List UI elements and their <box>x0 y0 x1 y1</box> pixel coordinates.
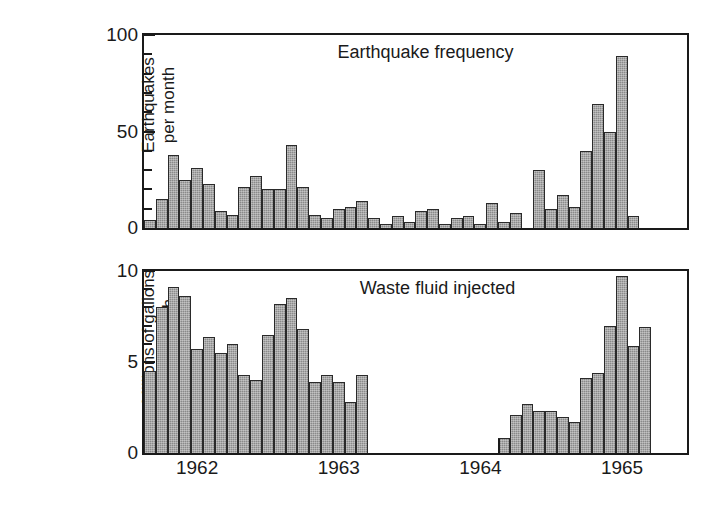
bar <box>156 199 168 228</box>
bar <box>639 327 651 453</box>
bar-slot <box>203 35 215 228</box>
bar-slot <box>533 35 545 228</box>
bar-slot <box>250 35 262 228</box>
bar-slot <box>368 35 380 228</box>
bar-slot <box>286 35 298 228</box>
bar-slot <box>309 271 321 453</box>
bar <box>580 151 592 228</box>
bar-slot <box>639 271 651 453</box>
bar <box>203 184 215 228</box>
bar-slot <box>522 271 534 453</box>
bar <box>321 375 333 453</box>
bar <box>345 207 357 228</box>
bar-slot <box>392 35 404 228</box>
bar-slot <box>545 35 557 228</box>
injection-resume-tick <box>498 439 500 453</box>
bar <box>510 415 522 453</box>
bar <box>356 201 368 228</box>
bar-slot <box>545 271 557 453</box>
y-tick-label: 50 <box>117 121 138 140</box>
bar-slot <box>215 271 227 453</box>
bar-slot <box>215 35 227 228</box>
bar-slot <box>580 35 592 228</box>
bar <box>439 224 451 228</box>
x-tick-label-1964: 1964 <box>459 457 501 479</box>
bar <box>274 189 286 228</box>
bar-slot <box>156 271 168 453</box>
y-tick-label: 10 <box>117 261 138 280</box>
bar <box>580 378 592 453</box>
bar-slot <box>179 271 191 453</box>
bar <box>262 189 274 228</box>
bar-slot <box>321 35 333 228</box>
bar-slot <box>510 271 522 453</box>
bar <box>321 218 333 228</box>
y-tick-label: 100 <box>106 25 138 44</box>
bar <box>250 380 262 453</box>
bar-slot <box>168 271 180 453</box>
bar <box>333 209 345 228</box>
x-tick-label-1962: 1962 <box>176 457 218 479</box>
y-tick-label: 0 <box>127 218 138 237</box>
bar <box>179 296 191 453</box>
bar-slot <box>179 35 191 228</box>
bar-slot <box>156 35 168 228</box>
bar-slot <box>498 35 510 228</box>
bar-slot <box>356 35 368 228</box>
bar <box>392 216 404 228</box>
bar-slot <box>474 271 486 453</box>
bar <box>616 276 628 453</box>
panel-waste-fluid-injected: Millions of gallons per month 0510 Waste… <box>142 269 689 455</box>
bar <box>309 382 321 453</box>
bar <box>168 287 180 453</box>
bar-slot <box>404 271 416 453</box>
bar-slot <box>616 35 628 228</box>
bar <box>592 104 604 228</box>
bar-slot <box>569 271 581 453</box>
bar-slot <box>451 271 463 453</box>
bar-slot <box>498 271 510 453</box>
bar-slot <box>321 271 333 453</box>
panel-earthquake-frequency: Earthquakes per month 050100 Earthquake … <box>142 33 689 230</box>
bar-slot <box>274 271 286 453</box>
bar <box>463 216 475 228</box>
bar-slot <box>628 35 640 228</box>
bar-slot <box>651 271 663 453</box>
bar <box>486 203 498 228</box>
bar <box>533 411 545 453</box>
bar <box>191 349 203 453</box>
bar <box>522 404 534 453</box>
bar <box>156 307 168 453</box>
bar <box>168 155 180 228</box>
bar-slot <box>297 271 309 453</box>
bar-slot <box>227 271 239 453</box>
bar-slot <box>427 35 439 228</box>
bar-slot <box>675 271 687 453</box>
bar-slot <box>250 271 262 453</box>
bar <box>227 344 239 453</box>
bar-slot <box>486 271 498 453</box>
bar-slot <box>580 271 592 453</box>
bar <box>345 402 357 453</box>
bar-slot <box>368 271 380 453</box>
bar <box>380 224 392 228</box>
bar-slot <box>663 271 675 453</box>
bar-slot <box>439 35 451 228</box>
bar-slot <box>474 35 486 228</box>
x-axis: 1962196319641965 <box>142 455 689 495</box>
bar-slot <box>168 35 180 228</box>
bar <box>404 222 416 228</box>
bar-slot <box>144 35 156 228</box>
bar <box>215 211 227 228</box>
bar <box>309 215 321 229</box>
bar <box>545 411 557 453</box>
bar-slot <box>486 35 498 228</box>
bar <box>604 326 616 453</box>
bar <box>286 145 298 228</box>
bar <box>569 422 581 453</box>
bar-slot <box>557 271 569 453</box>
bar-series-earthquake <box>144 35 687 228</box>
bar-slot <box>227 35 239 228</box>
bar <box>368 218 380 228</box>
bar-slot <box>380 35 392 228</box>
